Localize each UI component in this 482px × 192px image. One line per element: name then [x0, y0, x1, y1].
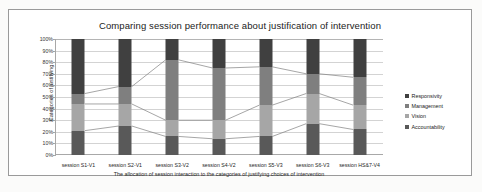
y-tick-label: 70% — [43, 71, 53, 77]
bar-segment[interactable] — [72, 131, 85, 155]
legend-swatch-icon — [405, 104, 409, 108]
bar-column[interactable]: session S2-V1 — [102, 39, 149, 155]
x-tick-label: session S2-V1 — [109, 162, 142, 168]
bar-stack[interactable] — [166, 39, 179, 155]
bar-segment[interactable] — [259, 136, 272, 155]
bar-segment[interactable] — [166, 60, 179, 120]
y-tick-label: 90% — [43, 48, 53, 54]
y-tick-label: 80% — [43, 59, 53, 65]
bar-stack[interactable] — [353, 39, 366, 155]
y-tick-label: 20% — [43, 129, 53, 135]
bar-segment[interactable] — [306, 74, 319, 94]
bar-segment[interactable] — [72, 39, 85, 94]
bar-segment[interactable] — [212, 39, 225, 68]
bar-segment[interactable] — [353, 77, 366, 105]
x-tick-label: session S1-V1 — [62, 162, 95, 168]
legend-item[interactable]: Accountability — [405, 123, 471, 130]
plot-area: 100%90%80%70%60%50%40%30%20%10%0% sessio… — [55, 39, 383, 155]
bar-stack[interactable] — [306, 39, 319, 155]
chart-frame: Comparing session performance about just… — [8, 9, 472, 176]
bar-segment[interactable] — [119, 126, 132, 155]
bar-segment[interactable] — [306, 94, 319, 124]
bar-stack[interactable] — [72, 39, 85, 155]
bar-segment[interactable] — [119, 39, 132, 87]
bar-segment[interactable] — [212, 139, 225, 155]
y-tick-label: 0% — [46, 152, 54, 158]
x-tick-label: session S5-V3 — [249, 162, 282, 168]
legend-swatch-icon — [405, 114, 409, 118]
bar-segment[interactable] — [72, 94, 85, 104]
bar-segment[interactable] — [212, 68, 225, 120]
legend-label: Management — [412, 103, 443, 109]
legend-swatch-icon — [405, 94, 409, 98]
bar-segment[interactable] — [166, 136, 179, 155]
bar-column[interactable]: session HS&7-V4 — [336, 39, 383, 155]
bar-segment[interactable] — [353, 129, 366, 155]
bar-column[interactable]: session S5-V3 — [242, 39, 289, 155]
legend-label: Vision — [412, 113, 427, 119]
bar-segment[interactable] — [259, 67, 272, 105]
bar-column[interactable]: session S4-V2 — [196, 39, 243, 155]
bar-segment[interactable] — [212, 120, 225, 139]
legend-item[interactable]: Vision — [405, 113, 471, 120]
x-tick-label: session HS&7-V4 — [339, 162, 380, 168]
bar-segment[interactable] — [119, 87, 132, 104]
bar-segment[interactable] — [166, 120, 179, 136]
legend-label: Accountability — [412, 124, 445, 130]
bar-stack[interactable] — [212, 39, 225, 155]
bar-segment[interactable] — [72, 104, 85, 131]
x-tick-label: session S3-V2 — [155, 162, 188, 168]
bar-stack[interactable] — [259, 39, 272, 155]
chart-legend: ResponsivityManagementVisionAccountabili… — [405, 92, 471, 134]
y-tick-label: 60% — [43, 82, 53, 88]
bar-segment[interactable] — [353, 105, 366, 129]
y-tick-label: 40% — [43, 106, 53, 112]
bar-segment[interactable] — [259, 105, 272, 136]
bar-column[interactable]: session S6-V3 — [289, 39, 336, 155]
x-tick-label: session S6-V3 — [296, 162, 329, 168]
x-tick-label: session S4-V2 — [202, 162, 235, 168]
y-tick-label: 50% — [43, 94, 53, 100]
bar-segment[interactable] — [259, 39, 272, 67]
y-tick-label: 100% — [40, 36, 53, 42]
y-tick-label: 10% — [43, 140, 53, 146]
bar-segment[interactable] — [166, 39, 179, 60]
bar-column[interactable]: session S3-V2 — [149, 39, 196, 155]
bar-segment[interactable] — [119, 104, 132, 126]
bar-stack[interactable] — [119, 39, 132, 155]
legend-item[interactable]: Management — [405, 102, 471, 109]
bar-column[interactable]: session S1-V1 — [55, 39, 102, 155]
chart-title: Comparing session performance about just… — [9, 20, 471, 31]
legend-swatch-icon — [405, 125, 409, 129]
bar-segment[interactable] — [353, 39, 366, 77]
x-axis-caption: The allocation of session interaction to… — [55, 171, 383, 177]
legend-label: Responsivity — [412, 93, 443, 99]
legend-item[interactable]: Responsivity — [405, 92, 471, 99]
bar-segment[interactable] — [306, 124, 319, 155]
bar-segment[interactable] — [306, 39, 319, 74]
y-tick-label: 30% — [43, 117, 53, 123]
